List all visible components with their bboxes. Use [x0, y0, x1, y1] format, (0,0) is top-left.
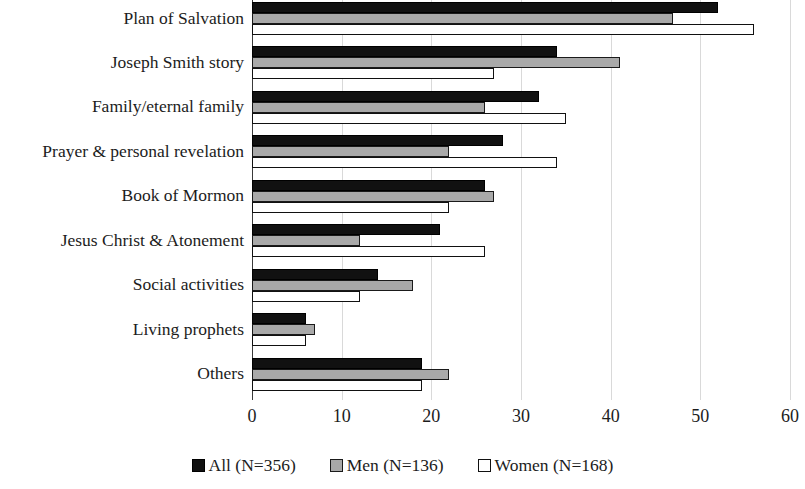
- bar-men: [252, 102, 485, 113]
- bar-women: [252, 24, 754, 35]
- bar-women: [252, 380, 422, 391]
- x-tick-label: 20: [401, 404, 461, 428]
- bar-group: [252, 358, 790, 391]
- bar-women: [252, 68, 494, 79]
- bar-all: [252, 180, 485, 191]
- bar-women: [252, 157, 557, 168]
- bar-men: [252, 369, 449, 380]
- bar-group: [252, 224, 790, 257]
- bar-all: [252, 91, 539, 102]
- legend-swatch-men: [330, 459, 343, 472]
- category-label: Living prophets: [0, 319, 244, 339]
- legend-label: All (N=356): [209, 454, 296, 476]
- legend-item[interactable]: Women (N=168): [478, 454, 614, 476]
- x-tick-label: 60: [760, 404, 805, 428]
- gridline: [790, 0, 791, 400]
- plot-area: [252, 0, 790, 400]
- bar-women: [252, 335, 306, 346]
- bar-all: [252, 269, 378, 280]
- bar-men: [252, 324, 315, 335]
- category-label: Book of Mormon: [0, 185, 244, 205]
- legend-label: Men (N=136): [347, 454, 444, 476]
- category-label: Prayer & personal revelation: [0, 141, 244, 161]
- x-axis-tick-labels: 0102030405060: [0, 404, 805, 432]
- category-label: Joseph Smith story: [0, 52, 244, 72]
- x-tick-label: 10: [312, 404, 372, 428]
- x-axis-line: [252, 400, 790, 401]
- bar-all: [252, 224, 440, 235]
- category-axis: Plan of SalvationJoseph Smith storyFamil…: [0, 0, 244, 400]
- legend-swatch-women: [478, 459, 491, 472]
- legend-item[interactable]: Men (N=136): [330, 454, 444, 476]
- category-label: Plan of Salvation: [0, 8, 244, 28]
- bar-group: [252, 46, 790, 79]
- bar-chart: Plan of SalvationJoseph Smith storyFamil…: [0, 0, 805, 489]
- bar-women: [252, 246, 485, 257]
- bar-group: [252, 2, 790, 35]
- bar-women: [252, 202, 449, 213]
- x-tick-label: 30: [491, 404, 551, 428]
- category-label: Social activities: [0, 274, 244, 294]
- bar-men: [252, 191, 494, 202]
- bar-group: [252, 313, 790, 346]
- bar-all: [252, 2, 718, 13]
- x-tick-label: 50: [670, 404, 730, 428]
- bar-group: [252, 269, 790, 302]
- legend-item[interactable]: All (N=356): [192, 454, 296, 476]
- bar-group: [252, 91, 790, 124]
- bar-all: [252, 46, 557, 57]
- bar-group: [252, 135, 790, 168]
- bar-men: [252, 235, 360, 246]
- bar-men: [252, 57, 620, 68]
- legend-swatch-all: [192, 459, 205, 472]
- category-label: Others: [0, 363, 244, 383]
- bar-all: [252, 358, 422, 369]
- bar-men: [252, 13, 673, 24]
- category-label: Family/eternal family: [0, 96, 244, 116]
- bar-men: [252, 280, 413, 291]
- bar-all: [252, 313, 306, 324]
- category-label: Jesus Christ & Atonement: [0, 230, 244, 250]
- chart-legend: All (N=356)Men (N=136)Women (N=168): [0, 449, 805, 481]
- bar-all: [252, 135, 503, 146]
- bar-group: [252, 180, 790, 213]
- x-tick-label: 0: [222, 404, 282, 428]
- bar-women: [252, 113, 566, 124]
- bar-men: [252, 146, 449, 157]
- bar-women: [252, 291, 360, 302]
- x-tick-label: 40: [581, 404, 641, 428]
- legend-label: Women (N=168): [495, 454, 614, 476]
